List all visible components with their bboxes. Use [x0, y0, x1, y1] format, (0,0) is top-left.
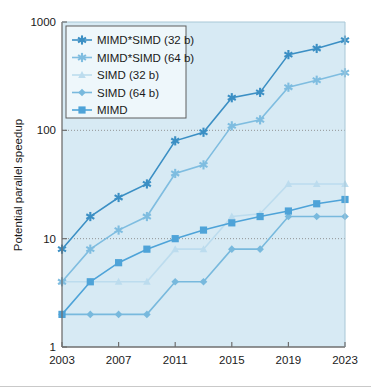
- x-tick-label: 2023: [332, 354, 358, 366]
- chart-figure: 1000100101 200320072011201520192023 Pote…: [0, 0, 371, 389]
- data-point: [200, 226, 207, 233]
- legend-swatch-marker: [78, 106, 85, 113]
- parallel-speedup-line-chart: 1000100101 200320072011201520192023 Pote…: [0, 0, 371, 389]
- legend-item-label: MIMD*SIMD (32 b): [97, 34, 194, 46]
- data-point: [285, 207, 292, 214]
- data-point: [115, 259, 122, 266]
- data-point: [143, 246, 150, 253]
- x-tick-label: 2011: [163, 354, 188, 366]
- x-tick-label: 2007: [106, 354, 132, 366]
- x-tick-label: 2003: [49, 354, 75, 366]
- legend: MIMD*SIMD (32 b)MIMD*SIMD (64 b)SIMD (32…: [66, 26, 194, 118]
- legend-item-label: MIMD*SIMD (64 b): [97, 52, 194, 64]
- y-tick-label: 1: [50, 341, 56, 353]
- x-tick-label: 2019: [276, 354, 302, 366]
- y-tick-label: 10: [43, 233, 56, 245]
- data-point: [313, 200, 320, 207]
- data-point: [228, 219, 235, 226]
- data-point: [257, 213, 264, 220]
- x-tick-label: 2015: [219, 354, 245, 366]
- page-bottom-rule: [0, 386, 371, 387]
- y-axis-title: Potential parallel speedup: [12, 119, 24, 251]
- data-point: [87, 278, 94, 285]
- y-tick-label: 100: [37, 124, 56, 136]
- data-point: [172, 235, 179, 242]
- legend-item-label: MIMD: [97, 104, 128, 116]
- legend-item-label: SIMD (32 b): [97, 69, 159, 81]
- legend-item-label: SIMD (64 b): [97, 87, 159, 99]
- y-tick-label: 1000: [30, 16, 56, 28]
